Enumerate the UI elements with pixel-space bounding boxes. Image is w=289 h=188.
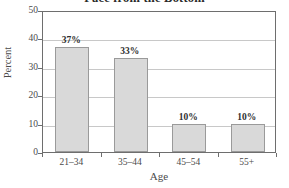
x-axis-title: Age	[42, 170, 276, 182]
y-axis-tick-label: 10	[0, 119, 38, 129]
y-axis-tick-label: 50	[0, 5, 38, 15]
x-axis-tick-label: 35–44	[101, 157, 160, 167]
y-axis-tick-mark	[38, 125, 42, 126]
y-axis-tick-mark	[38, 96, 42, 97]
y-axis-tick-label: 20	[0, 90, 38, 100]
bar	[114, 58, 148, 152]
x-axis-tick-mark	[159, 153, 160, 157]
bar-value-label: 10%	[159, 112, 218, 122]
x-axis-tick-label: 55+	[218, 157, 277, 167]
chart-title: Face from the Bottom	[0, 0, 289, 6]
bar	[55, 47, 89, 152]
y-axis-tick-mark	[38, 68, 42, 69]
bar-value-label: 10%	[218, 112, 277, 122]
x-axis-tick-mark	[101, 153, 102, 157]
bar-chart-figure: Face from the Bottom Percent 01020304050…	[0, 0, 289, 188]
y-axis-tick-label: 0	[0, 147, 38, 157]
x-axis-tick-mark	[276, 153, 277, 157]
x-axis-tick-mark	[42, 153, 43, 157]
plot-area	[42, 11, 276, 153]
x-axis-tick-label: 45–54	[159, 157, 218, 167]
x-axis-tick-label: 21–34	[42, 157, 101, 167]
y-axis-tick-mark	[38, 11, 42, 12]
y-axis-tick-label: 40	[0, 33, 38, 43]
bar-value-label: 37%	[42, 35, 101, 45]
x-axis-tick-mark	[218, 153, 219, 157]
bar	[231, 124, 265, 152]
bar	[172, 124, 206, 152]
bar-value-label: 33%	[101, 46, 160, 56]
y-axis-tick-label: 30	[0, 62, 38, 72]
